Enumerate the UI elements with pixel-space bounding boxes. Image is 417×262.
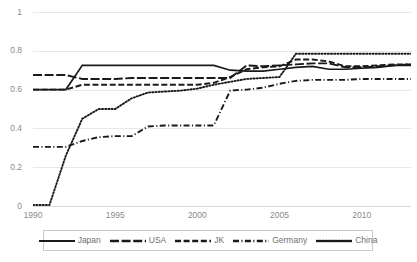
legend-swatch-icon: [316, 236, 352, 246]
series-svg: [33, 12, 411, 206]
legend-label: China: [355, 236, 377, 245]
y-tick-label: 0.4: [0, 124, 22, 133]
x-tick-label: 2000: [188, 211, 207, 220]
legend-item-china[interactable]: China: [316, 236, 377, 246]
gridline-y-0: [33, 206, 411, 207]
y-tick-label: 0.2: [0, 163, 22, 172]
y-tick-label: 0.6: [0, 85, 22, 94]
y-tick-label: 1: [0, 8, 22, 17]
series-line-germany: [33, 79, 411, 147]
y-tick-label: 0: [0, 202, 22, 211]
legend-swatch-icon: [233, 236, 269, 246]
plot-area: 00.20.40.60.81 19901995200020052010: [33, 12, 411, 206]
series-lines: [33, 12, 411, 206]
x-tick-label: 1990: [24, 211, 43, 220]
legend-item-japan[interactable]: Japan: [39, 236, 101, 246]
legend-label: Japan: [78, 236, 101, 245]
legend-swatch-icon: [175, 236, 211, 246]
y-tick-label: 0.8: [0, 46, 22, 55]
legend-label: USA: [149, 236, 166, 245]
legend-swatch-icon: [110, 236, 146, 246]
legend-item-germany[interactable]: Germany: [233, 236, 307, 246]
chart-container: 00.20.40.60.81 19901995200020052010 Japa…: [0, 0, 417, 262]
x-tick-label: 2010: [352, 211, 371, 220]
x-tick-label: 2005: [270, 211, 289, 220]
legend-label: Germany: [272, 236, 307, 245]
x-tick-label: 1995: [106, 211, 125, 220]
series-line-jk: [33, 60, 411, 90]
legend-label: JK: [214, 236, 224, 245]
legend-item-usa[interactable]: USA: [110, 236, 166, 246]
legend-item-jk[interactable]: JK: [175, 236, 224, 246]
series-line-china: [33, 54, 411, 205]
chart-legend: JapanUSAJKGermanyChina: [43, 230, 373, 251]
legend-swatch-icon: [39, 236, 75, 246]
